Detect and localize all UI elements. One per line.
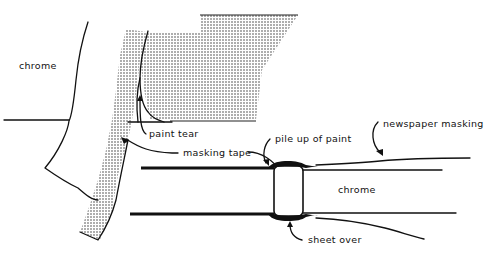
- sheet-over-arrowhead: [287, 221, 293, 227]
- newspaper-masking-upper: [316, 158, 470, 165]
- label-chrome-right: chrome: [338, 184, 376, 195]
- masking-tape-leader: [126, 139, 178, 153]
- newspaper-masking-arrowhead: [376, 149, 383, 156]
- diagram-canvas: chrome paint tear masking tape chrome pi…: [0, 0, 491, 256]
- label-sheet-over: sheet over: [308, 234, 362, 245]
- label-masking-tape: masking tape: [183, 147, 251, 158]
- pile-up-arrowhead: [263, 159, 269, 166]
- label-paint-tear: paint tear: [149, 128, 199, 139]
- newspaper-masking-leader: [373, 122, 380, 152]
- painted-panel-upper: [140, 15, 298, 120]
- masking-diagram: chrome paint tear masking tape chrome pi…: [0, 0, 491, 256]
- tape-band: [274, 166, 303, 216]
- label-newspaper-masking: newspaper masking: [383, 118, 484, 129]
- label-pile-up-of-paint: pile up of paint: [275, 133, 351, 144]
- chrome-piece-left-outline: [45, 22, 98, 200]
- label-chrome-left: chrome: [19, 60, 57, 71]
